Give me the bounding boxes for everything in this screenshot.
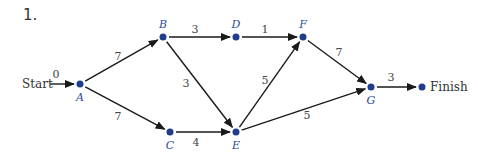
edge-weight-label: 0 xyxy=(53,68,60,81)
node-label-finish: Finish xyxy=(430,80,468,94)
edge-weight-label: 7 xyxy=(115,50,122,63)
edge-weight-label: 7 xyxy=(336,46,343,59)
node-g xyxy=(368,84,375,91)
node-a xyxy=(77,81,84,88)
edge-weight-label: 3 xyxy=(183,77,190,90)
problem-number: 1. xyxy=(23,6,37,24)
nodes-layer: StartABCDEFGFinish xyxy=(22,18,468,152)
node-f xyxy=(300,34,307,41)
edge-weight-label: 4 xyxy=(193,136,200,149)
edge-weight-label: 5 xyxy=(304,109,311,122)
edge-weight-label: 3 xyxy=(192,23,199,36)
node-label-f: F xyxy=(298,18,307,31)
node-label-d: D xyxy=(231,18,241,31)
edge-a-c xyxy=(85,87,164,129)
edge-a-b xyxy=(85,40,158,81)
edges-layer: 07731345573 xyxy=(50,23,416,149)
node-finish xyxy=(419,84,426,91)
edge-weight-label: 3 xyxy=(388,71,395,84)
critical-path-network-diagram: 1. 07731345573 StartABCDEFGFinish xyxy=(0,0,478,156)
node-c xyxy=(167,129,174,136)
node-e xyxy=(233,129,240,136)
node-label-g: G xyxy=(367,94,376,107)
node-label-c: C xyxy=(166,139,175,152)
edge-b-e xyxy=(167,42,233,127)
edge-weight-label: 7 xyxy=(115,110,122,123)
edge-weight-label: 1 xyxy=(262,23,269,36)
edge-weight-label: 5 xyxy=(262,74,269,87)
node-label-a: A xyxy=(75,91,84,104)
node-label-b: B xyxy=(158,18,167,31)
start-label: Start xyxy=(22,77,53,91)
node-label-e: E xyxy=(231,139,240,152)
node-d xyxy=(233,34,240,41)
node-b xyxy=(160,34,167,41)
network-graph: 07731345573 StartABCDEFGFinish xyxy=(0,0,478,156)
